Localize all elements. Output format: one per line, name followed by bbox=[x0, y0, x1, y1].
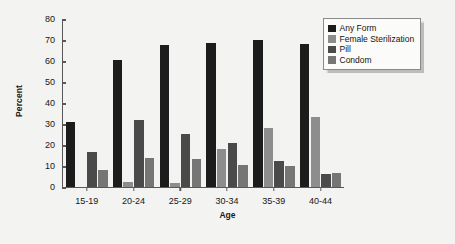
y-tick-label: 30 bbox=[45, 119, 55, 129]
bar bbox=[170, 183, 180, 186]
x-tick-mark bbox=[273, 188, 274, 192]
bar bbox=[192, 159, 202, 186]
x-tick-label: 35-39 bbox=[262, 196, 285, 206]
legend-item: Pill bbox=[328, 44, 414, 55]
bar bbox=[206, 43, 216, 187]
y-tick-label: 40 bbox=[45, 98, 55, 108]
bar bbox=[274, 161, 284, 186]
x-tick-label: 25-29 bbox=[169, 196, 192, 206]
bar bbox=[134, 120, 144, 186]
bar bbox=[217, 149, 227, 187]
y-tick-label: 70 bbox=[45, 35, 55, 45]
bar bbox=[321, 174, 331, 187]
bar bbox=[238, 165, 248, 187]
legend-label: Pill bbox=[340, 44, 351, 55]
bar bbox=[300, 44, 310, 187]
bar bbox=[264, 128, 274, 187]
y-axis-label: Percent bbox=[14, 66, 24, 136]
bar bbox=[285, 166, 295, 187]
x-tick-mark bbox=[320, 188, 321, 192]
x-tick-mark bbox=[226, 188, 227, 192]
y-tick-mark bbox=[62, 187, 66, 188]
bar bbox=[181, 134, 191, 187]
legend-item: Condom bbox=[328, 55, 414, 66]
y-tick-label: 0 bbox=[50, 182, 55, 192]
legend-label: Female Sterilization bbox=[340, 34, 415, 45]
bar bbox=[160, 45, 170, 187]
bar bbox=[87, 152, 97, 187]
x-axis-line bbox=[62, 187, 344, 188]
x-tick-label: 40-44 bbox=[309, 196, 332, 206]
x-tick-label: 20-24 bbox=[122, 196, 145, 206]
bar bbox=[332, 173, 342, 187]
bar bbox=[311, 117, 321, 186]
bar bbox=[66, 122, 76, 187]
bar-group: 35-39 bbox=[250, 20, 297, 187]
bar bbox=[253, 40, 263, 187]
bar-chart-figure: Percent Age 01020304050607080 15-1920-24… bbox=[0, 0, 455, 244]
x-tick-label: 15-19 bbox=[75, 196, 98, 206]
y-tick-label: 20 bbox=[45, 140, 55, 150]
legend-swatch-icon bbox=[328, 25, 336, 33]
bar-group: 25-29 bbox=[157, 20, 204, 187]
legend-swatch-icon bbox=[328, 46, 336, 54]
plot-area: 01020304050607080 15-1920-2425-2930-3435… bbox=[62, 20, 334, 188]
x-tick-mark bbox=[133, 188, 134, 192]
y-tick-label: 80 bbox=[45, 14, 55, 24]
chart-legend: Any FormFemale SterilizationPillCondom bbox=[323, 18, 421, 70]
y-tick-label: 60 bbox=[45, 56, 55, 66]
legend-swatch-icon bbox=[328, 56, 336, 64]
bar-group: 30-34 bbox=[204, 20, 251, 187]
bar bbox=[228, 143, 238, 187]
bar-group: 20-24 bbox=[110, 20, 157, 187]
legend-swatch-icon bbox=[328, 35, 336, 43]
bar bbox=[113, 60, 123, 187]
x-tick-label: 30-34 bbox=[216, 196, 239, 206]
legend-item: Female Sterilization bbox=[328, 34, 414, 45]
legend-label: Any Form bbox=[340, 23, 377, 34]
bar bbox=[123, 182, 133, 186]
bar bbox=[145, 158, 155, 186]
x-axis-label: Age bbox=[0, 210, 455, 220]
bar bbox=[98, 170, 108, 187]
y-tick-label: 10 bbox=[45, 161, 55, 171]
bar-group: 15-19 bbox=[63, 20, 110, 187]
bar-group-container: 15-1920-2425-2930-3435-3940-44 bbox=[63, 20, 344, 187]
x-tick-mark bbox=[180, 188, 181, 192]
legend-label: Condom bbox=[340, 55, 372, 66]
y-tick-label: 50 bbox=[45, 77, 55, 87]
legend-item: Any Form bbox=[328, 23, 414, 34]
x-tick-mark bbox=[86, 188, 87, 192]
